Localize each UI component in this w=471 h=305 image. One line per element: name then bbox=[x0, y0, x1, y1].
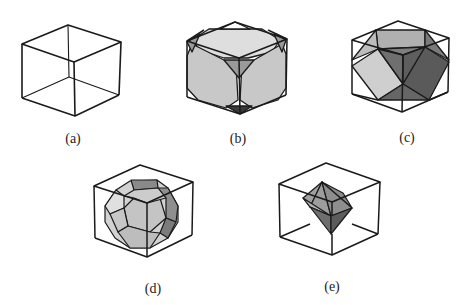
panel-b-label: (b) bbox=[230, 131, 246, 147]
panel-b-truncated-cube bbox=[187, 22, 287, 114]
panel-e-octahedron bbox=[279, 163, 380, 255]
panel-e-label: (e) bbox=[324, 279, 340, 295]
panel-d-label: (d) bbox=[145, 281, 161, 297]
panel-a-label: (a) bbox=[65, 131, 81, 147]
figure-canvas bbox=[0, 0, 471, 305]
panel-c-cuboctahedron bbox=[352, 21, 449, 112]
panel-c-label: (c) bbox=[399, 130, 415, 146]
panel-a-cube bbox=[22, 25, 121, 116]
panel-d-truncated-octahedron bbox=[94, 165, 193, 257]
